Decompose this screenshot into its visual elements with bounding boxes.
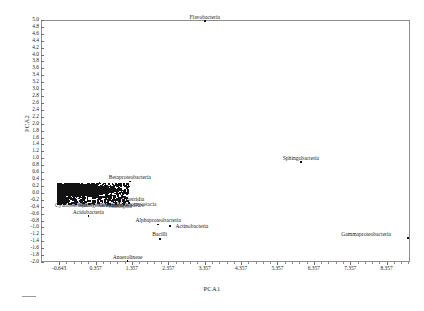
x-tick-mark <box>205 262 206 265</box>
cluster-point <box>123 192 125 193</box>
cluster-point <box>116 193 118 195</box>
x-tick-mark <box>314 262 315 265</box>
cluster-point <box>105 197 107 198</box>
y-tick-mark <box>41 68 44 69</box>
x-tick-minor-mark <box>154 262 155 264</box>
y-tick-mark <box>41 61 44 62</box>
cluster-point <box>95 197 97 198</box>
x-tick-minor-mark <box>292 262 293 264</box>
cluster-point <box>114 193 116 194</box>
cluster-point <box>108 197 110 198</box>
x-tick-mark <box>132 262 133 265</box>
y-tick-label: 3.0 <box>32 86 39 91</box>
cluster-point <box>68 197 70 199</box>
x-tick-mark <box>241 262 242 265</box>
y-tick-label: -0.8 <box>30 218 39 223</box>
cluster-point <box>116 185 118 187</box>
data-point-label: Acidobacteria <box>73 209 104 215</box>
data-point-label: Gammaproteobacteria <box>341 231 391 237</box>
x-tick-label: 4.357 <box>235 266 247 271</box>
y-tick-mark <box>41 255 44 256</box>
y-tick-label: 1.6 <box>32 135 39 140</box>
y-tick-mark <box>41 117 44 118</box>
data-point-label: Clostridia <box>122 196 144 202</box>
y-tick-label: 4.0 <box>32 52 39 57</box>
x-tick-minor-mark <box>358 262 359 264</box>
y-tick-label: 3.4 <box>32 73 39 78</box>
y-tick-mark <box>41 131 44 132</box>
y-tick-mark <box>41 241 44 242</box>
cluster-point <box>128 185 130 186</box>
data-point-label: Anaerolineae <box>113 254 143 260</box>
cluster-point <box>66 197 68 198</box>
y-tick-label: 5.0 <box>32 17 39 22</box>
y-tick-mark <box>41 48 44 49</box>
x-tick-label: 3.357 <box>199 266 211 271</box>
y-tick-label: 2.0 <box>32 121 39 126</box>
x-tick-minor-mark <box>81 262 82 264</box>
x-tick-label: 5.357 <box>271 266 283 271</box>
data-point <box>300 161 302 163</box>
data-point <box>204 20 206 22</box>
y-tick-mark <box>41 27 44 28</box>
x-tick-minor-mark <box>197 262 198 264</box>
y-tick-mark <box>41 89 44 90</box>
x-tick-minor-mark <box>125 262 126 264</box>
cluster-point <box>84 196 86 197</box>
x-tick-minor-mark <box>321 262 322 264</box>
cluster-point <box>97 196 99 197</box>
x-tick-minor-mark <box>299 262 300 264</box>
x-tick-minor-mark <box>408 262 409 264</box>
x-tick-minor-mark <box>256 262 257 264</box>
y-tick-mark <box>41 207 44 208</box>
data-point <box>88 215 90 217</box>
cluster-point <box>97 183 99 184</box>
x-tick-minor-mark <box>372 262 373 264</box>
x-tick-label: 7.357 <box>344 266 356 271</box>
cluster-point <box>63 197 65 198</box>
y-tick-label: -1.4 <box>30 239 39 244</box>
x-tick-label: 2.357 <box>162 266 174 271</box>
x-tick-minor-mark <box>336 262 337 264</box>
y-tick-label: -1.8 <box>30 252 39 257</box>
y-tick-label: 0.6 <box>32 169 39 174</box>
y-tick-label: 1.2 <box>32 149 39 154</box>
x-tick-minor-mark <box>190 262 191 264</box>
cluster-point <box>125 192 127 194</box>
data-point <box>128 202 130 204</box>
y-tick-mark <box>41 20 44 21</box>
y-tick-label: 3.6 <box>32 66 39 71</box>
data-point <box>159 238 161 240</box>
x-tick-minor-mark <box>176 262 177 264</box>
x-tick-minor-mark <box>147 262 148 264</box>
y-tick-label: 2.2 <box>32 114 39 119</box>
y-tick-mark <box>41 158 44 159</box>
x-tick-mark <box>96 262 97 265</box>
y-tick-label: 1.8 <box>32 128 39 133</box>
figure-container: PCA2 5.04.84.64.44.24.03.83.63.43.23.02.… <box>0 0 424 311</box>
data-point-label: Flavobacteria <box>189 14 219 20</box>
x-tick-minor-mark <box>285 262 286 264</box>
y-tick-mark <box>41 34 44 35</box>
y-tick-mark <box>41 248 44 249</box>
y-tick-label: 0.8 <box>32 162 39 167</box>
y-tick-mark <box>41 75 44 76</box>
x-tick-label: -0.643 <box>52 266 66 271</box>
x-tick-minor-mark <box>343 262 344 264</box>
x-tick-minor-mark <box>365 262 366 264</box>
y-tick-label: -0.6 <box>30 211 39 216</box>
x-tick-minor-mark <box>88 262 89 264</box>
y-tick-label: 1.0 <box>32 156 39 161</box>
plot-area: CyanobacteriaSphingobacterialesGemmatimo… <box>41 20 410 262</box>
y-tick-mark <box>41 234 44 235</box>
x-tick-label: 6.357 <box>308 266 320 271</box>
x-tick-minor-mark <box>74 262 75 264</box>
cluster-point <box>57 199 59 200</box>
caption-dash <box>22 296 36 297</box>
x-tick-minor-mark <box>248 262 249 264</box>
x-tick-minor-mark <box>401 262 402 264</box>
cluster-point <box>120 185 122 187</box>
cluster-point <box>109 197 111 198</box>
cluster-core-band <box>58 195 95 196</box>
y-tick-mark <box>41 55 44 56</box>
